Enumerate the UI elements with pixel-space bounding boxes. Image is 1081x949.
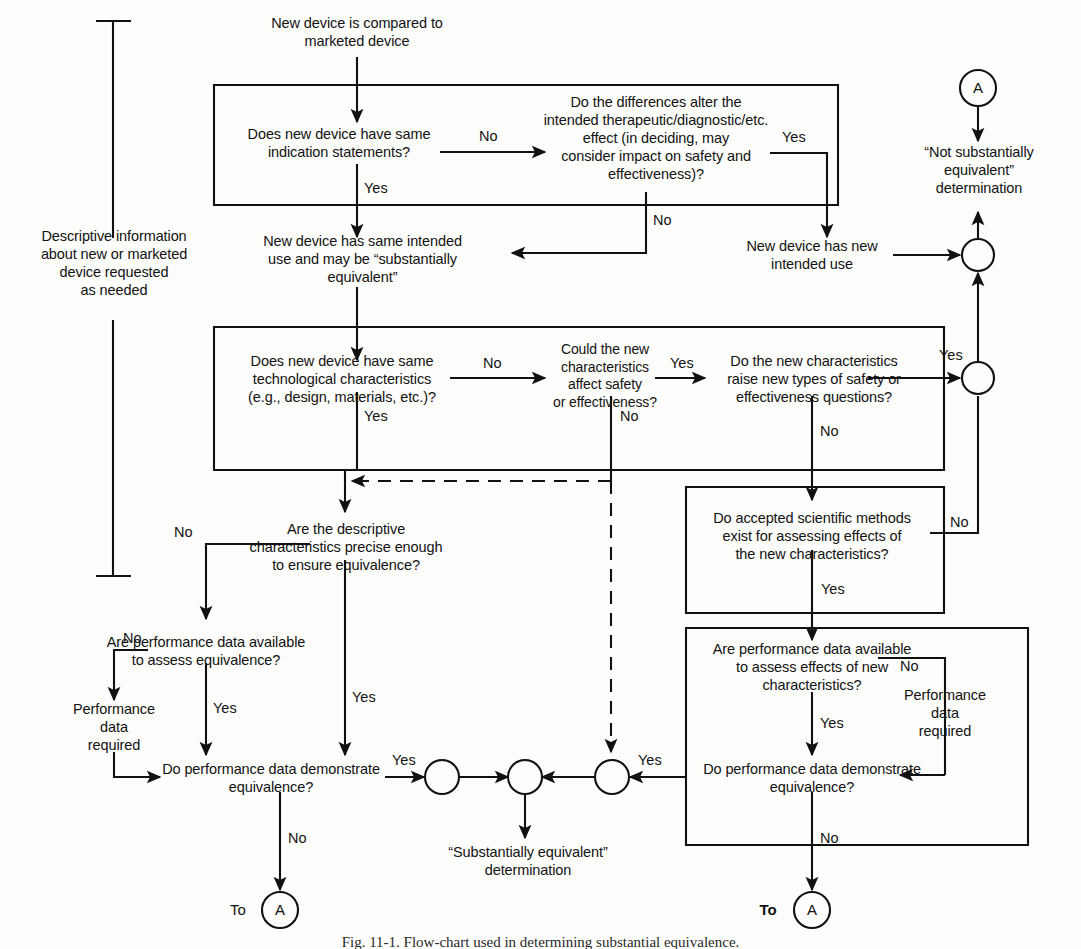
node-start: New device is compared to marketed devic… [237, 14, 477, 50]
node-q-tech-characteristics: Does new device have same technological … [223, 352, 461, 406]
flowchart-page: New device is compared to marketed devic… [0, 0, 1081, 949]
node-not-substantially-equivalent: “Not substantially equivalent” determina… [905, 143, 1053, 197]
edge-label-raise-types-yes: Yes [939, 347, 963, 363]
merge-circle-nse-lower [962, 362, 994, 394]
connector-a-bottom-right-label: A [797, 901, 827, 918]
edge-differences-no [512, 192, 646, 253]
node-q-differences: Do the differences alter the intended th… [525, 93, 787, 183]
edge-label-demo-left-yes: Yes [392, 752, 416, 768]
connector-a-bottom-left-label: A [265, 901, 295, 918]
node-perf-required-left: Performance data required [62, 700, 166, 754]
edge-label-demo-right-no: No [820, 830, 839, 846]
edge-label-perf-left-no: No [123, 630, 142, 646]
node-q-accepted-methods: Do accepted scientific methods exist for… [698, 509, 926, 563]
merge-circle-right [595, 760, 629, 794]
edge-methods-no [930, 396, 978, 533]
connector-to-left-label: To [222, 901, 254, 918]
edge-label-descriptive-no: No [174, 524, 193, 540]
edge-label-perf-left-yes: Yes [213, 700, 237, 716]
figure-caption: Fig. 11-1. Flow-chart used in determinin… [0, 934, 1081, 949]
edge-label-methods-no: No [950, 514, 969, 530]
merge-circle-left [425, 760, 459, 794]
node-q-demonstrate-right: Do performance data demonstrate equivale… [696, 760, 928, 796]
node-substantially-equivalent: “Substantially equivalent” determination [415, 843, 641, 879]
node-q-could-affect: Could the new characteristics affect saf… [540, 341, 670, 411]
edge-label-indication-yes: Yes [364, 180, 388, 196]
node-q-perf-available-right: Are performance data available to assess… [698, 640, 926, 694]
node-descriptive-info: Descriptive information about new or mar… [20, 227, 208, 299]
edge-label-demo-left-no: No [288, 830, 307, 846]
node-q-demonstrate-left: Do performance data demonstrate equivale… [155, 760, 387, 796]
edge-label-indication-no: No [479, 128, 498, 144]
node-q-indication: Does new device have same indication sta… [225, 125, 453, 161]
edge-label-perf-right-yes: Yes [820, 715, 844, 731]
merge-circle-center [508, 760, 542, 794]
edge-label-could-affect-no: No [620, 408, 639, 424]
connector-to-right-label: To [752, 901, 784, 918]
merge-circle-nse-upper [962, 239, 994, 271]
node-q-descriptive-precise: Are the descriptive characteristics prec… [232, 520, 460, 574]
connector-a-top-label: A [963, 79, 993, 96]
node-same-intended-use: New device has same intended use and may… [245, 232, 480, 286]
edge-label-descriptive-yes: Yes [352, 689, 376, 705]
edge-label-differences-yes: Yes [782, 129, 806, 145]
edge-label-raise-types-no: No [820, 423, 839, 439]
node-perf-required-right: Performance data required [893, 686, 997, 740]
edge-label-methods-yes: Yes [821, 581, 845, 597]
edge-label-differences-no: No [653, 212, 672, 228]
node-new-intended-use: New device has new intended use [728, 237, 896, 273]
edge-perf-required-left [114, 752, 160, 777]
edge-label-could-affect-yes: Yes [670, 355, 694, 371]
edge-label-demo-right-yes: Yes [638, 752, 662, 768]
edge-label-tech-no: No [483, 355, 502, 371]
edge-label-perf-right-no: No [900, 658, 919, 674]
edge-label-tech-yes: Yes [364, 408, 388, 424]
node-q-raise-new-types: Do the new characteristics raise new typ… [700, 352, 928, 406]
